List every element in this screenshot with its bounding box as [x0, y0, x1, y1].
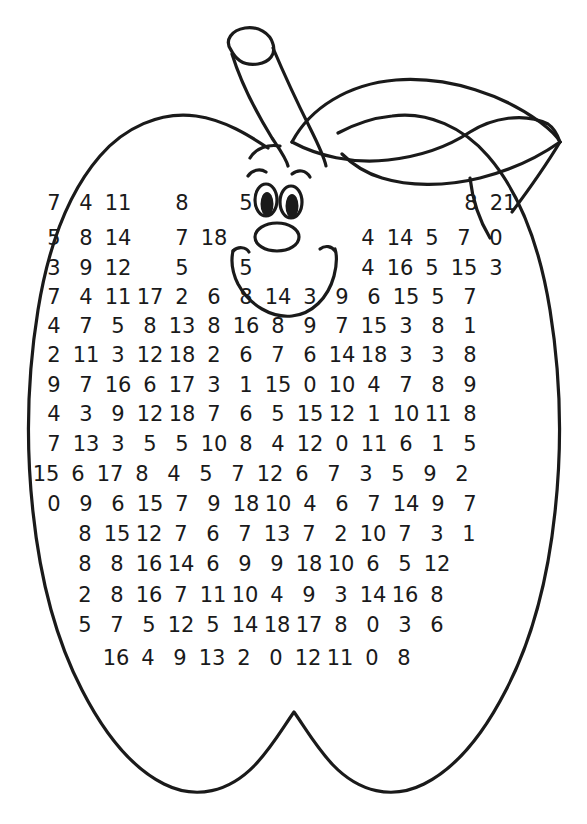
grid-number: 9	[422, 494, 454, 515]
grid-number: 4	[261, 585, 293, 606]
grid-number: 9	[229, 554, 261, 575]
grid-number: 5	[134, 434, 166, 455]
grid-number: 18	[198, 228, 230, 249]
grid-number: 18	[166, 345, 198, 366]
grid-number: 7	[293, 524, 325, 545]
grid-number: 5	[190, 464, 222, 485]
worksheet-canvas: 7411855814718391255741117268143961557475…	[0, 0, 587, 824]
grid-number: 16	[230, 316, 262, 337]
grid-number: 5	[262, 404, 294, 425]
grid-number: 3	[422, 345, 454, 366]
grid-number: 8	[388, 648, 420, 669]
grid-number: 13	[261, 524, 293, 545]
grid-number: 5	[166, 434, 198, 455]
grid-number: 4	[352, 228, 384, 249]
grid-number: 9	[293, 585, 325, 606]
grid-row: 47581381689715381	[38, 316, 486, 337]
grid-number: 14	[357, 585, 389, 606]
grid-number: 0	[294, 375, 326, 396]
grid-number: 3	[198, 375, 230, 396]
grid-number: 16	[133, 585, 165, 606]
grid-number: 0	[38, 494, 70, 515]
grid-number: 3	[102, 345, 134, 366]
grid-number: 15	[262, 375, 294, 396]
grid-number: 10	[326, 375, 358, 396]
grid-row: 2113121826761418338	[38, 345, 486, 366]
grid-number: 5	[38, 228, 70, 249]
grid-number: 7	[454, 287, 486, 308]
grid-number: 7	[38, 287, 70, 308]
grid-number: 8	[230, 287, 262, 308]
grid-number: 7	[390, 375, 422, 396]
grid-number: 18	[358, 345, 390, 366]
grid-number: 12	[134, 345, 166, 366]
grid-number: 14	[390, 494, 422, 515]
grid-number: 15	[294, 404, 326, 425]
grid-number: 8	[455, 193, 487, 214]
grid-right-row: 4165153	[352, 258, 512, 279]
grid-number: 2	[166, 287, 198, 308]
grid-number: 4	[132, 648, 164, 669]
grid-number: 15	[390, 287, 422, 308]
grid-number: 8	[325, 615, 357, 636]
grid-number: 9	[261, 554, 293, 575]
grid-number: 13	[70, 434, 102, 455]
grid-number: 12	[165, 615, 197, 636]
grid-number: 2	[198, 345, 230, 366]
grid-number: 8	[230, 434, 262, 455]
grid-number: 11	[102, 193, 134, 214]
grid-row: 713355108412011615	[38, 434, 486, 455]
grid-number: 3	[389, 615, 421, 636]
grid-number: 14	[165, 554, 197, 575]
grid-number: 7	[229, 524, 261, 545]
grid-number: 14	[229, 615, 261, 636]
grid-number: 12	[102, 258, 134, 279]
grid-number: 3	[350, 464, 382, 485]
grid-number: 18	[166, 404, 198, 425]
grid-number: 6	[326, 494, 358, 515]
grid-number: 2	[446, 464, 478, 485]
grid-number: 5	[416, 228, 448, 249]
grid-number: 17	[166, 375, 198, 396]
grid-number: 8	[101, 585, 133, 606]
grid-number: 8	[166, 193, 198, 214]
grid-number: 7	[166, 494, 198, 515]
grid-row: 096157918104671497	[38, 494, 486, 515]
grid-number: 9	[414, 464, 446, 485]
grid-number: 4	[70, 193, 102, 214]
grid-number: 15	[448, 258, 480, 279]
grid-number: 3	[294, 287, 326, 308]
grid-right-row: 821	[455, 193, 519, 214]
grid-row: 741185	[38, 193, 262, 214]
grid-number: 18	[230, 494, 262, 515]
grid-number: 4	[158, 464, 190, 485]
number-grid: 7411855814718391255741117268143961557475…	[0, 0, 587, 824]
grid-number: 8	[422, 316, 454, 337]
grid-number: 7	[448, 228, 480, 249]
grid-number: 16	[133, 554, 165, 575]
grid-number: 5	[133, 615, 165, 636]
grid-number: 13	[166, 316, 198, 337]
grid-number: 10	[198, 434, 230, 455]
grid-number: 1	[454, 316, 486, 337]
grid-number: 5	[102, 316, 134, 337]
grid-number: 7	[222, 464, 254, 485]
grid-number: 5	[422, 287, 454, 308]
grid-number: 7	[389, 524, 421, 545]
grid-number: 4	[38, 404, 70, 425]
grid-number: 5	[382, 464, 414, 485]
grid-number: 7	[454, 494, 486, 515]
grid-number: 7	[70, 375, 102, 396]
grid-row: 971661731150104789	[38, 375, 486, 396]
grid-number: 15	[30, 464, 62, 485]
grid-number: 18	[261, 615, 293, 636]
grid-number: 0	[356, 648, 388, 669]
grid-number: 11	[197, 585, 229, 606]
grid-number: 9	[198, 494, 230, 515]
grid-number: 5	[230, 193, 262, 214]
grid-number: 0	[357, 615, 389, 636]
grid-number: 7	[198, 404, 230, 425]
grid-number: 18	[293, 554, 325, 575]
grid-number: 5	[197, 615, 229, 636]
grid-number: 8	[262, 316, 294, 337]
